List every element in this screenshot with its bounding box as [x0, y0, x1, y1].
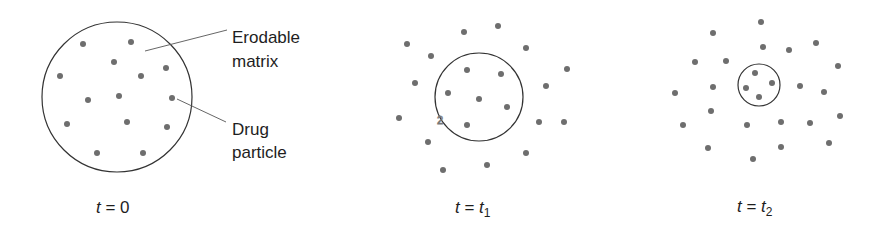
panel-t2: t = t2: [672, 19, 843, 219]
drug-particle-dot: [523, 150, 529, 156]
leader-line-drug: [177, 99, 226, 122]
drug-particle-dot: [484, 162, 490, 168]
drug-particle-dot: [428, 53, 434, 59]
drug-particle-dot: [708, 108, 714, 114]
drug-particle-dot: [564, 66, 570, 72]
drug-particle-dot: [536, 119, 542, 125]
stray-glyph: 2: [437, 114, 443, 126]
drug-particle-dot: [464, 67, 470, 73]
drug-particle-dot: [813, 40, 819, 46]
drug-particle-dot: [504, 104, 510, 110]
drug-particle-dot: [744, 122, 750, 128]
drug-particle-dot: [412, 80, 418, 86]
drug-particle-dot: [837, 113, 843, 119]
erosion-diagram: Erodable matrix Drug particle t = 0 2 t …: [0, 0, 872, 233]
drug-particle-dot: [778, 119, 784, 125]
caption-t2: t = t2: [737, 197, 773, 219]
drug-particle-dot: [404, 41, 410, 47]
drug-particle-dot: [692, 59, 698, 65]
drug-particle-dot: [760, 44, 766, 50]
drug-particles: [396, 23, 570, 173]
drug-particle-dot: [163, 65, 169, 71]
drug-particle-dot: [523, 45, 529, 51]
drug-particle-dot: [80, 41, 86, 47]
panel-t1: 2 t = t1: [396, 23, 570, 220]
drug-particle-dot: [561, 119, 567, 125]
drug-particle-dot: [116, 93, 122, 99]
drug-particle-dot: [85, 97, 91, 103]
drug-particle-dot: [778, 144, 784, 150]
drug-particle-dot: [543, 83, 549, 89]
drug-particle-dot: [498, 71, 504, 77]
drug-particle-dot: [821, 89, 827, 95]
drug-particle-dot: [786, 47, 792, 53]
drug-particle-dot: [758, 19, 764, 25]
label-drug: Drug: [232, 120, 269, 139]
drug-particle-dot: [445, 90, 451, 96]
drug-particle-dot: [440, 167, 446, 173]
drug-particle-dot: [138, 73, 144, 79]
drug-particle-dot: [743, 85, 749, 91]
drug-particle-dot: [164, 124, 170, 130]
drug-particle-dot: [723, 58, 729, 64]
drug-particle-dot: [710, 30, 716, 36]
drug-particle-dot: [797, 83, 803, 89]
drug-particle-dot: [826, 140, 832, 146]
drug-particle-dot: [396, 115, 402, 121]
drug-particle-dot: [680, 122, 686, 128]
panel-t0: Erodable matrix Drug particle t = 0: [42, 22, 300, 217]
drug-particle-dot: [807, 120, 813, 126]
drug-particle-dot: [464, 122, 470, 128]
drug-particle-dot: [111, 59, 117, 65]
drug-particle-dot: [752, 70, 758, 76]
drug-particle-dot: [124, 119, 130, 125]
drug-particle-dot: [769, 80, 775, 86]
drug-particles: [672, 19, 843, 162]
label-erodable: Erodable: [232, 28, 300, 47]
drug-particle-dot: [495, 23, 501, 29]
drug-particle-dot: [710, 84, 716, 90]
drug-particle-dot: [425, 139, 431, 145]
drug-particle-dot: [57, 73, 63, 79]
drug-particle-dot: [461, 29, 467, 35]
drug-particle-dot: [64, 121, 70, 127]
drug-particle-dot: [169, 95, 175, 101]
drug-particle-dot: [140, 150, 146, 156]
drug-particles: [57, 39, 175, 156]
drug-particle-dot: [476, 96, 482, 102]
caption-t0: t = 0: [96, 198, 130, 217]
drug-particle-dot: [94, 150, 100, 156]
drug-particle-dot: [672, 90, 678, 96]
drug-particle-dot: [705, 145, 711, 151]
drug-particle-dot: [128, 39, 134, 45]
label-particle: particle: [232, 143, 287, 162]
drug-particle-dot: [750, 156, 756, 162]
label-matrix: matrix: [232, 52, 279, 71]
drug-particle-dot: [835, 63, 841, 69]
caption-t1: t = t1: [455, 198, 491, 220]
drug-particle-dot: [756, 94, 762, 100]
